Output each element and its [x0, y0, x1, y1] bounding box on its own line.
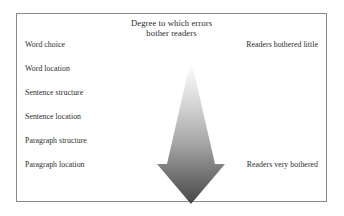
arrow-shape [157, 59, 225, 204]
figure-root: Degree to which errors bother readers Wo… [0, 0, 344, 216]
left-label-list: Word choice Word location Sentence struc… [25, 40, 145, 184]
left-label-sentence-structure: Sentence structure [25, 88, 145, 112]
left-label-word-location: Word location [25, 64, 145, 88]
right-label-very-bothered: Readers very bothered [247, 160, 318, 169]
title-line-1: Degree to which errors [17, 18, 326, 28]
left-label-paragraph-location: Paragraph location [25, 160, 145, 184]
right-label-bothered-little: Readers bothered little [246, 40, 318, 49]
page-title: Degree to which errors bother readers [17, 18, 326, 38]
title-line-2: bother readers [17, 28, 326, 38]
left-label-word-choice: Word choice [25, 40, 145, 64]
downward-gradient-arrow-icon [143, 44, 239, 207]
left-label-sentence-location: Sentence location [25, 112, 145, 136]
left-label-paragraph-structure: Paragraph structure [25, 136, 145, 160]
diagram-frame: Degree to which errors bother readers Wo… [16, 13, 327, 202]
